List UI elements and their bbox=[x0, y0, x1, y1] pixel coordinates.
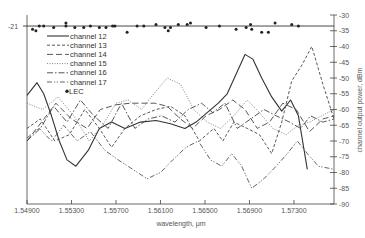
series-line-channel-14 bbox=[27, 100, 334, 141]
lec-point bbox=[250, 28, 253, 31]
legend-label: channel 14 bbox=[70, 50, 107, 59]
legend-label: channel 13 bbox=[70, 41, 107, 50]
x-tick-label: 1.55300 bbox=[59, 207, 84, 214]
lec-point bbox=[64, 21, 67, 24]
x-axis-label: wavelength, μm bbox=[155, 220, 205, 228]
y-tick-label: -50 bbox=[339, 75, 349, 82]
x-tick-label: 1.56500 bbox=[192, 207, 217, 214]
lec-point bbox=[136, 25, 139, 28]
lec-point bbox=[169, 26, 172, 29]
y-tick-label: -85 bbox=[339, 185, 349, 192]
series-line-channel-17 bbox=[27, 125, 334, 188]
lec-point bbox=[64, 25, 67, 28]
y-tick-label: -70 bbox=[339, 138, 349, 145]
legend-label: channel 17 bbox=[70, 78, 107, 87]
x-axis-ticks: 1.549001.553001.557001.561001.565001.569… bbox=[14, 200, 306, 214]
series-line-channel-16 bbox=[27, 100, 334, 141]
lec-point bbox=[104, 26, 107, 29]
lec-point bbox=[82, 26, 85, 29]
y-tick-label: -35 bbox=[339, 27, 349, 34]
lec-point bbox=[31, 28, 34, 31]
lec-point bbox=[245, 26, 248, 29]
y-axis-ticks: -30-35-40-45-50-55-60-65-70-75-80-85-90 bbox=[330, 12, 349, 208]
lec-point bbox=[163, 26, 166, 29]
left-annotation: -21 bbox=[8, 23, 18, 30]
legend-label: channel 15 bbox=[70, 59, 107, 68]
lec-point bbox=[235, 28, 238, 31]
lec-point bbox=[177, 23, 180, 26]
x-tick-label: 1.57300 bbox=[281, 207, 306, 214]
lec-point bbox=[274, 21, 277, 24]
line-chart: 1.549001.553001.557001.561001.565001.569… bbox=[0, 0, 365, 238]
legend-label: channel 16 bbox=[70, 68, 107, 77]
x-tick-label: 1.54900 bbox=[14, 207, 39, 214]
lec-point bbox=[290, 23, 293, 26]
y-tick-label: -90 bbox=[339, 201, 349, 208]
lec-point bbox=[126, 31, 129, 34]
lec-point bbox=[167, 29, 170, 32]
lec-point bbox=[142, 25, 145, 28]
y-axis-label: channel output power, dBm bbox=[356, 67, 364, 152]
x-tick-label: 1.56900 bbox=[237, 207, 262, 214]
lec-point bbox=[249, 23, 252, 26]
y-tick-label: -60 bbox=[339, 106, 349, 113]
x-tick-label: 1.55700 bbox=[103, 207, 128, 214]
y-tick-label: -80 bbox=[339, 169, 349, 176]
lec-point bbox=[267, 31, 270, 34]
lec-point bbox=[38, 25, 41, 28]
lec-point bbox=[297, 25, 300, 28]
legend-label: channel 12 bbox=[70, 32, 107, 41]
lec-point bbox=[186, 23, 189, 26]
legend: channel 12channel 13channel 14channel 15… bbox=[47, 32, 107, 96]
lec-point bbox=[73, 26, 76, 29]
lec-point bbox=[189, 21, 192, 24]
lec-point bbox=[113, 25, 116, 28]
y-tick-label: -55 bbox=[339, 90, 349, 97]
lec-point bbox=[34, 29, 37, 32]
y-tick-label: -65 bbox=[339, 122, 349, 129]
lec-point bbox=[218, 25, 221, 28]
lec-point bbox=[89, 25, 92, 28]
lec-point bbox=[52, 26, 55, 29]
legend-label: LEC bbox=[69, 87, 84, 96]
y-tick-label: -75 bbox=[339, 153, 349, 160]
lec-point bbox=[205, 26, 208, 29]
lec-point bbox=[155, 23, 158, 26]
y-tick-label: -30 bbox=[339, 12, 349, 19]
y-tick-label: -40 bbox=[339, 43, 349, 50]
lec-point bbox=[98, 26, 101, 29]
lec-point bbox=[260, 31, 263, 34]
x-tick-label: 1.56100 bbox=[148, 207, 173, 214]
y-tick-label: -45 bbox=[339, 59, 349, 66]
lec-point bbox=[42, 25, 45, 28]
